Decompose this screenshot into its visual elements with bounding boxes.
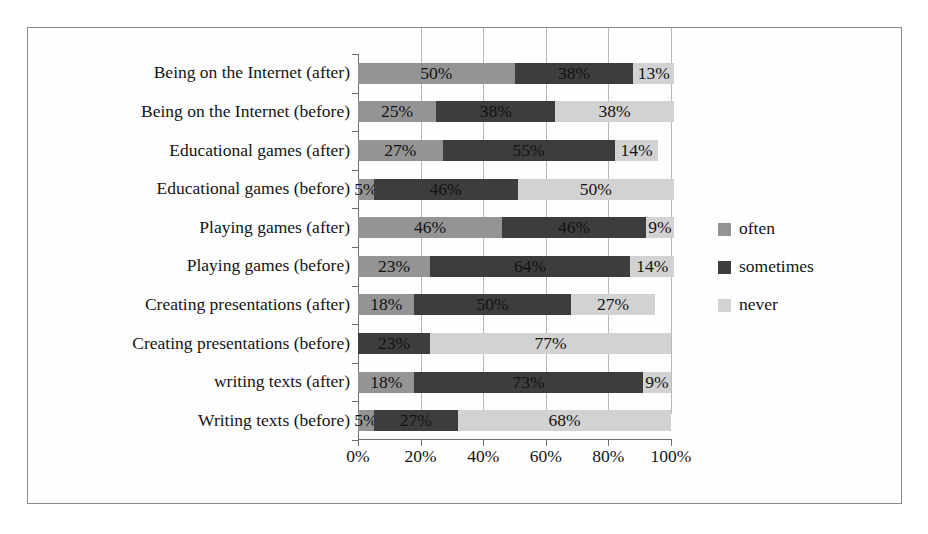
- bar-segment-often: [358, 63, 515, 84]
- stacked-bar-row: 23%77%: [358, 333, 671, 354]
- y-axis-tick: [352, 286, 358, 287]
- bar-segment-sometimes: [358, 333, 430, 354]
- bar-segment-never: [633, 63, 674, 84]
- stacked-bar-row: 18%73%9%: [358, 372, 671, 393]
- stacked-bar-row: 27%55%14%: [358, 140, 671, 161]
- y-axis-tick: [352, 208, 358, 209]
- bar-segment-often: [358, 179, 374, 200]
- bar-segment-never: [630, 256, 674, 277]
- legend-item: never: [718, 286, 814, 324]
- legend-swatch-icon: [718, 261, 731, 274]
- bar-segment-often: [358, 256, 430, 277]
- legend-swatch-icon: [718, 223, 731, 236]
- legend-item: sometimes: [718, 248, 814, 286]
- bar-segment-sometimes: [374, 410, 459, 431]
- stacked-bar-row: 5%46%50%: [358, 179, 671, 200]
- y-axis-tick: [352, 131, 358, 132]
- y-axis-tick: [352, 170, 358, 171]
- stacked-bar-row: 25%38%38%: [358, 101, 671, 122]
- y-axis-tick: [352, 324, 358, 325]
- bar-segment-often: [358, 294, 414, 315]
- legend-label: never: [739, 296, 778, 314]
- bar-segment-often: [358, 217, 502, 238]
- category-label: Educational games (after): [169, 142, 350, 160]
- stacked-bar-row: 18%50%27%: [358, 294, 671, 315]
- legend-swatch-icon: [718, 299, 731, 312]
- bar-segment-never: [646, 217, 674, 238]
- bar-segment-often: [358, 101, 436, 122]
- legend-label: sometimes: [739, 258, 814, 276]
- chart-frame: Being on the Internet (after)Being on th…: [27, 27, 902, 504]
- chart-plot-container: Being on the Internet (after)Being on th…: [28, 28, 901, 503]
- category-label: Educational games (before): [157, 180, 350, 198]
- y-axis-tick: [352, 247, 358, 248]
- bar-segment-never: [571, 294, 656, 315]
- x-axis-tick-label: 100%: [631, 448, 711, 466]
- y-axis-tick: [352, 93, 358, 94]
- y-axis-tick: [352, 401, 358, 402]
- category-label: writing texts (after): [214, 373, 350, 391]
- bar-segment-sometimes: [374, 179, 518, 200]
- bar-segment-often: [358, 140, 443, 161]
- category-label: Playing games (after): [199, 219, 350, 237]
- bar-segment-never: [518, 179, 675, 200]
- stacked-bar-row: 50%38%13%: [358, 63, 671, 84]
- category-label: Being on the Internet (before): [141, 103, 350, 121]
- x-axis-line: [358, 439, 672, 440]
- category-label: Creating presentations (before): [132, 335, 350, 353]
- y-axis-tick: [352, 363, 358, 364]
- y-axis-tick: [352, 54, 358, 55]
- bar-segment-sometimes: [443, 140, 615, 161]
- legend-label: often: [739, 220, 775, 238]
- bar-segment-sometimes: [502, 217, 646, 238]
- bar-segment-never: [458, 410, 671, 431]
- bar-segment-sometimes: [414, 294, 571, 315]
- category-label: Playing games (before): [187, 257, 350, 275]
- category-label: Being on the Internet (after): [154, 64, 350, 82]
- chart-legend: oftensometimesnever: [718, 210, 814, 324]
- stacked-bar-row: 46%46%9%: [358, 217, 671, 238]
- legend-item: often: [718, 210, 814, 248]
- bar-segment-sometimes: [430, 256, 630, 277]
- stacked-bar-row: 23%64%14%: [358, 256, 671, 277]
- bar-segment-often: [358, 372, 414, 393]
- stacked-bar-row: 5%27%68%: [358, 410, 671, 431]
- bar-segment-sometimes: [414, 372, 642, 393]
- bar-segment-never: [555, 101, 674, 122]
- bar-segment-never: [615, 140, 659, 161]
- bar-segment-never: [643, 372, 671, 393]
- category-label: Creating presentations (after): [145, 296, 350, 314]
- bar-segment-sometimes: [515, 63, 634, 84]
- bar-segment-never: [430, 333, 671, 354]
- bar-segment-sometimes: [436, 101, 555, 122]
- category-label: Writing texts (before): [198, 412, 350, 430]
- bar-segment-often: [358, 410, 374, 431]
